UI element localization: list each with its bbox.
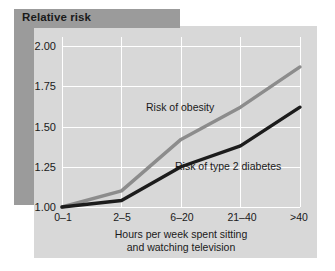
series-label-diabetes: Risk of type 2 diabetes: [175, 160, 281, 172]
x-axis-title-line1: Hours per week spent sitting: [62, 228, 300, 241]
x-axis-title-line2: and watching television: [62, 241, 300, 254]
obesity-line: [62, 67, 300, 207]
series-label-obesity: Risk of obesity: [146, 101, 214, 113]
x-axis-title: Hours per week spent sitting and watchin…: [62, 228, 300, 254]
relative-risk-figure: Relative risk 2.00 1.75 1.50 1.25 1.00 0…: [0, 0, 335, 271]
plot-area: 2.00 1.75 1.50 1.25 1.00 0–1 2–5 6–20 21…: [0, 0, 335, 271]
diabetes-line: [62, 107, 300, 207]
